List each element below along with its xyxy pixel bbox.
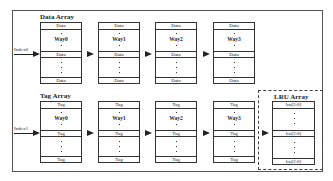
way-label: Way3 [214,115,254,121]
arrow-right-icon [87,51,94,57]
ellipsis-dot [234,45,235,46]
ellipsis-dot [61,45,62,46]
tag-row-bottom: Tag [156,156,196,163]
tag-row-index: Tag [99,130,139,137]
way-label: Way2 [156,36,196,42]
ellipsis-dot [234,67,235,68]
tag-row-top: Tag [214,102,254,109]
tag-way3-block: Tag Way3 Tag Tag [213,101,255,163]
tag-way1-block: Tag Way1 Tag Tag [98,101,140,163]
ellipsis-dot [61,72,62,73]
lru-row-top: lru[2:0] [273,102,314,109]
tag-way0-block: Tag Way0 Tag Tag [40,101,82,163]
ellipsis-dot [234,72,235,73]
index1-label: Index1 [14,126,28,131]
data-row-bottom: Data [99,77,139,84]
ellipsis-dot [119,151,120,152]
ellipsis-dot [176,62,177,63]
ellipsis-dot [119,146,120,147]
data-way2-block: Data Way2 Data Data [155,22,197,84]
ellipsis-dot [176,124,177,125]
data-row-top: Data [214,23,254,30]
way-label: Way0 [41,115,81,121]
ellipsis-dot [234,33,235,34]
tag-row-bottom: Tag [214,156,254,163]
ellipsis-dot [119,62,120,63]
data-row-bottom: Data [214,77,254,84]
index0-arrow-icon [33,51,40,57]
ellipsis-dot [234,151,235,152]
data-row-top: Data [41,23,81,30]
index0-line [14,54,34,55]
data-way3-block: Data Way3 Data Data [213,22,255,84]
ellipsis-dot [176,45,177,46]
arrow-right-icon [87,130,94,136]
ellipsis-dot [176,112,177,113]
tag-row-top: Tag [156,102,196,109]
way-label: Way2 [156,115,196,121]
data-row-bottom: Data [41,77,81,84]
ellipsis-dot [176,33,177,34]
ellipsis-dot [294,113,295,114]
tag-row-top: Tag [41,102,81,109]
lru-row-bottom: lru[2:0] [273,158,314,165]
arrow-right-icon [203,130,210,136]
tag-way2-block: Tag Way2 Tag Tag [155,101,197,163]
arrow-right-icon [145,130,152,136]
ellipsis-dot [119,67,120,68]
arrow-right-icon [145,51,152,57]
tag-row-bottom: Tag [99,156,139,163]
ellipsis-dot [294,142,295,143]
data-row-index: Data [41,51,81,58]
ellipsis-dot [234,141,235,142]
ellipsis-dot [61,146,62,147]
ellipsis-dot [176,72,177,73]
data-row-index: Data [214,51,254,58]
ellipsis-dot [294,123,295,124]
ellipsis-dot [294,152,295,153]
data-array-label: Data Array [40,13,74,21]
way-label: Way1 [99,36,139,42]
way-label: Way0 [41,36,81,42]
data-row-bottom: Data [156,77,196,84]
ellipsis-dot [119,112,120,113]
ellipsis-dot [119,124,120,125]
ellipsis-dot [61,124,62,125]
ellipsis-dot [234,146,235,147]
lru-row-index: lru[2:0] [273,130,314,137]
data-row-index: Data [99,51,139,58]
ellipsis-dot [61,151,62,152]
data-row-top: Data [99,23,139,30]
ellipsis-dot [234,112,235,113]
ellipsis-dot [61,141,62,142]
ellipsis-dot [119,72,120,73]
tag-row-index: Tag [214,130,254,137]
data-way0-block: Data Way0 Data Data [40,22,82,84]
ellipsis-dot [119,33,120,34]
ellipsis-dot [294,147,295,148]
arrow-right-icon [203,51,210,57]
ellipsis-dot [61,112,62,113]
ellipsis-dot [176,67,177,68]
tag-array-label: Tag Array [40,92,71,100]
lru-block: lru[2:0] lru[2:0] lru[2:0] [272,101,315,165]
tag-row-bottom: Tag [41,156,81,163]
data-row-top: Data [156,23,196,30]
ellipsis-dot [61,33,62,34]
data-row-index: Data [156,51,196,58]
data-way1-block: Data Way1 Data Data [98,22,140,84]
ellipsis-dot [119,141,120,142]
ellipsis-dot [234,62,235,63]
ellipsis-dot [61,62,62,63]
index1-line [14,133,34,134]
ellipsis-dot [176,151,177,152]
way-label: Way3 [214,36,254,42]
ellipsis-dot [176,146,177,147]
lru-array-label: LRU Array [274,93,308,101]
tag-row-top: Tag [99,102,139,109]
ellipsis-dot [61,67,62,68]
index0-label: Index0 [14,47,28,52]
tag-row-index: Tag [41,130,81,137]
ellipsis-dot [294,118,295,119]
tag-row-index: Tag [156,130,196,137]
